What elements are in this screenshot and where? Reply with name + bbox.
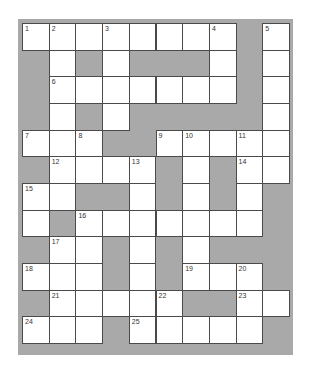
crossword-cell[interactable]: 11	[236, 130, 264, 158]
crossword-cell[interactable]: 15	[22, 183, 50, 211]
crossword-cell[interactable]: 24	[22, 316, 50, 344]
block-cell	[22, 156, 50, 184]
block-cell	[22, 103, 50, 131]
block-cell	[102, 316, 130, 344]
crossword-cell[interactable]	[49, 103, 77, 131]
crossword-cell[interactable]: 25	[129, 316, 157, 344]
crossword-cell[interactable]	[102, 156, 130, 184]
block-cell	[22, 50, 50, 78]
crossword-cell[interactable]	[182, 316, 210, 344]
crossword-cell[interactable]: 16	[75, 210, 103, 238]
crossword-cell[interactable]: 23	[236, 290, 264, 318]
crossword-cell[interactable]	[156, 210, 184, 238]
crossword-cell[interactable]: 1	[22, 23, 50, 51]
crossword-cell[interactable]: 19	[182, 263, 210, 291]
crossword-cell[interactable]	[75, 263, 103, 291]
crossword-cell[interactable]	[49, 130, 77, 158]
block-cell	[49, 210, 77, 238]
crossword-cell[interactable]: 12	[49, 156, 77, 184]
clue-number: 19	[185, 265, 193, 272]
crossword-cell[interactable]	[49, 263, 77, 291]
crossword-cell[interactable]	[262, 76, 290, 104]
crossword-cell[interactable]	[182, 76, 210, 104]
crossword-cell[interactable]: 9	[156, 130, 184, 158]
crossword-cell[interactable]	[262, 156, 290, 184]
block-cell	[102, 236, 130, 264]
clue-number: 25	[132, 318, 140, 325]
crossword-cell[interactable]	[182, 156, 210, 184]
crossword-cell[interactable]	[262, 130, 290, 158]
crossword-cell[interactable]	[75, 76, 103, 104]
block-cell	[209, 156, 237, 184]
crossword-cell[interactable]	[129, 183, 157, 211]
crossword-cell[interactable]	[262, 103, 290, 131]
crossword-cell[interactable]: 22	[156, 290, 184, 318]
crossword-cell[interactable]	[209, 316, 237, 344]
crossword-cell[interactable]: 21	[49, 290, 77, 318]
crossword-cell[interactable]	[102, 76, 130, 104]
crossword-cell[interactable]	[182, 23, 210, 51]
crossword-cell[interactable]	[22, 210, 50, 238]
crossword-cell[interactable]	[182, 183, 210, 211]
crossword-cell[interactable]	[129, 76, 157, 104]
crossword-cell[interactable]	[102, 103, 130, 131]
crossword-cell[interactable]	[102, 290, 130, 318]
crossword-cell[interactable]	[102, 50, 130, 78]
crossword-cell[interactable]: 5	[262, 23, 290, 51]
crossword-cell[interactable]: 2	[49, 23, 77, 51]
clue-number: 10	[185, 132, 193, 139]
crossword-cell[interactable]	[49, 183, 77, 211]
crossword-cell[interactable]	[236, 183, 264, 211]
crossword-cell[interactable]	[75, 316, 103, 344]
crossword-cell[interactable]	[236, 210, 264, 238]
crossword-cell[interactable]	[262, 290, 290, 318]
block-cell	[22, 76, 50, 104]
clue-number: 12	[52, 158, 60, 165]
crossword-cell[interactable]	[156, 23, 184, 51]
crossword-cell[interactable]: 4	[209, 23, 237, 51]
crossword-cell[interactable]: 14	[236, 156, 264, 184]
crossword-cell[interactable]	[49, 50, 77, 78]
crossword-cell[interactable]	[156, 76, 184, 104]
crossword-cell[interactable]	[209, 210, 237, 238]
block-cell	[236, 236, 264, 264]
crossword-cell[interactable]: 7	[22, 130, 50, 158]
crossword-cell[interactable]	[129, 263, 157, 291]
clue-number: 5	[265, 25, 269, 32]
clue-number: 7	[25, 132, 29, 139]
clue-number: 13	[132, 158, 140, 165]
crossword-cell[interactable]	[182, 210, 210, 238]
crossword-cell[interactable]: 20	[236, 263, 264, 291]
crossword-cell[interactable]	[156, 316, 184, 344]
crossword-cell[interactable]: 13	[129, 156, 157, 184]
crossword-cell[interactable]	[129, 23, 157, 51]
crossword-cell[interactable]	[49, 316, 77, 344]
crossword-cell[interactable]	[262, 50, 290, 78]
crossword-cell[interactable]	[129, 210, 157, 238]
crossword-cell[interactable]	[182, 236, 210, 264]
crossword-cell[interactable]	[129, 236, 157, 264]
clue-number: 21	[52, 292, 60, 299]
crossword-cell[interactable]: 10	[182, 130, 210, 158]
clue-number: 17	[52, 238, 60, 245]
block-cell	[156, 103, 184, 131]
crossword-cell[interactable]: 6	[49, 76, 77, 104]
crossword-cell[interactable]	[75, 23, 103, 51]
crossword-cell[interactable]	[129, 290, 157, 318]
crossword-cell[interactable]	[209, 76, 237, 104]
crossword-cell[interactable]: 3	[102, 23, 130, 51]
crossword-cell[interactable]	[75, 290, 103, 318]
clue-number: 24	[25, 318, 33, 325]
crossword-cell[interactable]	[75, 156, 103, 184]
crossword-cell[interactable]: 17	[49, 236, 77, 264]
crossword-cell[interactable]	[236, 316, 264, 344]
crossword-cell[interactable]	[209, 263, 237, 291]
crossword-cell[interactable]	[209, 130, 237, 158]
crossword-cell[interactable]: 8	[75, 130, 103, 158]
block-cell	[129, 103, 157, 131]
crossword-cell[interactable]	[75, 236, 103, 264]
crossword-cell[interactable]	[102, 210, 130, 238]
crossword-cell[interactable]: 18	[22, 263, 50, 291]
block-cell	[102, 130, 130, 158]
crossword-cell[interactable]	[209, 50, 237, 78]
